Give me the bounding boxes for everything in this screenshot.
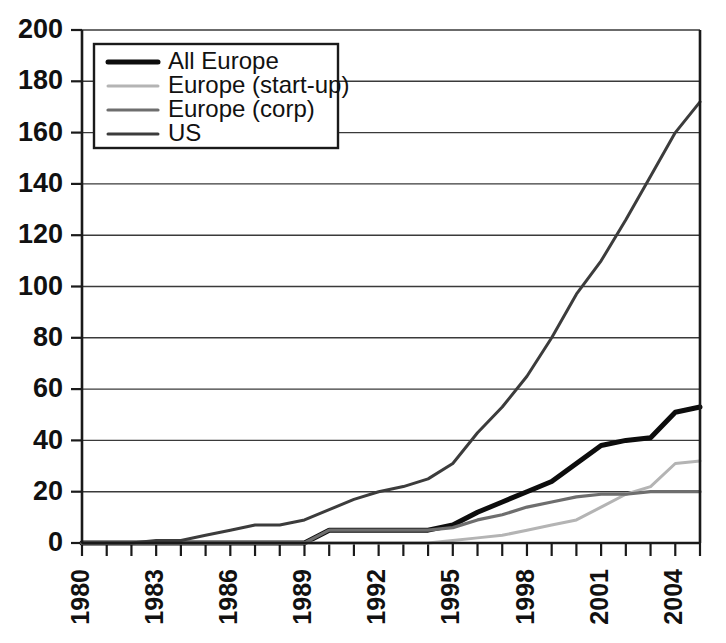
legend-label-2: Europe (corp) xyxy=(168,95,315,122)
y-tick-label: 180 xyxy=(18,65,63,95)
data-series xyxy=(82,102,700,543)
y-tick-marks xyxy=(71,30,82,543)
y-tick-label: 100 xyxy=(18,271,63,301)
x-tick-label: 1992 xyxy=(362,569,390,625)
y-tick-label: 160 xyxy=(18,117,63,147)
y-tick-label: 40 xyxy=(33,425,63,455)
y-tick-label: 0 xyxy=(48,527,63,557)
x-tick-label: 1980 xyxy=(66,569,94,625)
y-tick-label: 120 xyxy=(18,219,63,249)
y-tick-label: 60 xyxy=(33,373,63,403)
y-tick-label: 20 xyxy=(33,476,63,506)
x-axis-tick-labels: 198019831986198919921995199820012004 xyxy=(66,569,687,625)
chart-canvas: 020406080100120140160180200 198019831986… xyxy=(0,0,726,643)
line-chart: 020406080100120140160180200 198019831986… xyxy=(0,0,726,643)
chart-legend: All EuropeEurope (start-up)Europe (corp)… xyxy=(94,44,349,148)
series-line-0 xyxy=(82,407,700,543)
y-axis-tick-labels: 020406080100120140160180200 xyxy=(18,14,63,557)
x-tick-label: 2001 xyxy=(585,569,613,625)
series-line-2 xyxy=(82,492,700,543)
x-tick-label: 1986 xyxy=(214,569,242,625)
x-tick-label: 1995 xyxy=(436,569,464,625)
x-tick-label: 2004 xyxy=(659,569,687,625)
x-tick-label: 1989 xyxy=(288,569,316,625)
series-line-3 xyxy=(82,102,700,543)
legend-label-1: Europe (start-up) xyxy=(168,71,349,98)
y-tick-label: 80 xyxy=(33,322,63,352)
y-tick-label: 140 xyxy=(18,168,63,198)
y-tick-label: 200 xyxy=(18,14,63,44)
x-tick-label: 1983 xyxy=(140,569,168,625)
legend-label-3: US xyxy=(168,119,201,146)
legend-label-0: All Europe xyxy=(168,47,279,74)
x-tick-label: 1998 xyxy=(511,569,539,625)
